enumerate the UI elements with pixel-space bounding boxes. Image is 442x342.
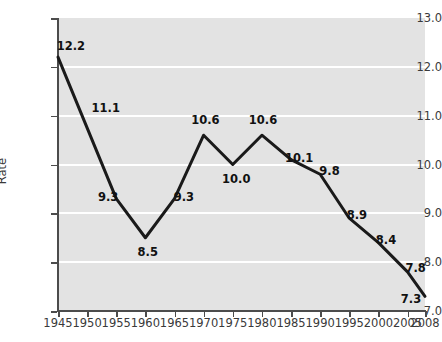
data-point-label: 11.1 xyxy=(92,101,120,115)
data-point-label: 7.3 xyxy=(401,292,421,306)
data-point-label: 10.1 xyxy=(285,151,313,165)
data-point-label: 10.0 xyxy=(222,172,250,186)
data-point-label: 8.5 xyxy=(138,245,158,259)
data-point-label: 10.6 xyxy=(191,113,219,127)
data-point-label: 10.6 xyxy=(249,113,277,127)
data-point-label: 9.3 xyxy=(98,190,118,204)
line-chart: 13.012.011.010.09.08.07.0 19451950195519… xyxy=(0,0,442,342)
data-point-label: 9.3 xyxy=(174,190,194,204)
data-point-label: 12.2 xyxy=(57,39,85,53)
data-point-label: 8.9 xyxy=(347,208,367,222)
data-point-label: 9.8 xyxy=(319,164,339,178)
data-point-label: 7.8 xyxy=(405,261,425,275)
data-point-label: 8.4 xyxy=(376,233,396,247)
